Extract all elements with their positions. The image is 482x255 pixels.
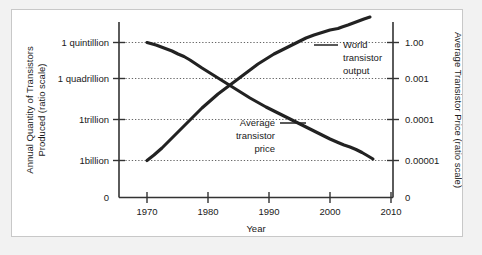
right-ticklabel-1: 1.00 — [405, 37, 424, 48]
annotation-average-price-line2: transistor — [236, 130, 275, 141]
x-ticklabel-1990: 1990 — [258, 206, 279, 217]
chart-panel: 1 quintillion 1 quadrillion 1trillion 1b… — [11, 9, 463, 237]
x-ticklabel-2000: 2000 — [319, 206, 340, 217]
right-axis-label: Average Transistor Price (ratio scale) — [453, 32, 462, 188]
right-axis — [387, 22, 399, 198]
annotation-world-transistor-output: World transistor output — [314, 39, 382, 76]
left-axis-label-line1: Annual Quantity of Transistors — [24, 46, 35, 174]
left-ticklabel-zero: 0 — [104, 192, 109, 203]
chart-screenshot: 1 quintillion 1 quadrillion 1trillion 1b… — [0, 0, 482, 255]
x-ticklabel-1980: 1980 — [197, 206, 218, 217]
left-axis-label-line2: Produced (ratio scale) — [36, 64, 47, 157]
annotation-world-output-line3: output — [343, 65, 370, 76]
annotation-average-transistor-price: Average transistor price — [236, 117, 306, 154]
left-ticklabel-trillion: 1trillion — [79, 114, 109, 125]
annotation-world-output-line2: transistor — [343, 52, 382, 63]
annotation-average-price-line1: Average — [240, 117, 275, 128]
x-axis — [119, 192, 393, 203]
series-average-transistor-price — [147, 43, 373, 160]
left-ticklabel-billion: 1billion — [79, 155, 109, 166]
x-ticklabel-1970: 1970 — [136, 206, 157, 217]
right-ticklabel-00001: 0.00001 — [405, 155, 439, 166]
right-ticklabel-001: 0.001 — [405, 73, 429, 84]
right-ticklabel-0001: 0.0001 — [405, 114, 434, 125]
left-ticklabel-quadrillion: 1 quadrillion — [58, 73, 109, 84]
right-ticklabel-zero: 0 — [405, 192, 410, 203]
left-ticklabel-quintillion: 1 quintillion — [61, 37, 109, 48]
transistor-chart: 1 quintillion 1 quadrillion 1trillion 1b… — [12, 10, 462, 236]
annotation-world-output-line1: World — [343, 39, 368, 50]
left-axis — [113, 22, 125, 198]
x-ticklabel-2010: 2010 — [380, 206, 401, 217]
x-axis-label: Year — [246, 223, 265, 234]
annotation-average-price-line3: price — [254, 143, 275, 154]
